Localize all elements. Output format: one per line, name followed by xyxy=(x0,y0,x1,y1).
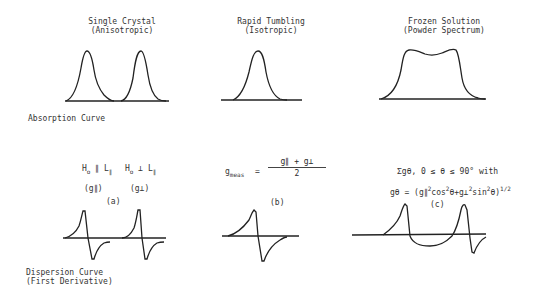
frozen-solution-dispersion-curve xyxy=(352,204,486,253)
rapid-tumbling-dispersion-curve xyxy=(222,210,299,261)
single-crystal-absorption-curve xyxy=(65,51,169,101)
rapid-tumbling-absorption-curve xyxy=(221,51,302,100)
single-crystal-dispersion-curve xyxy=(63,210,166,259)
curves-canvas xyxy=(0,0,534,293)
frozen-solution-absorption-curve xyxy=(379,49,486,99)
